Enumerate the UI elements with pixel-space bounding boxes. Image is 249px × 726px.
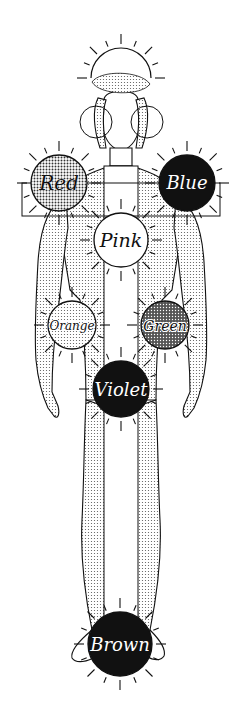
orange-circle: Orange (48, 301, 96, 349)
orange-label: Orange (49, 319, 94, 333)
red-circle: Red (31, 155, 87, 211)
blue-circle: Blue (159, 155, 215, 211)
violet-label: Violet (95, 379, 149, 400)
crown-circle (91, 48, 151, 93)
pink-label: Pink (99, 229, 143, 251)
head (103, 91, 139, 150)
red-label: Red (38, 171, 79, 195)
neck (110, 148, 132, 166)
blue-label: Blue (165, 172, 207, 193)
chakra-diagram: Red Blue Pink Orange Green Violet Brown (0, 0, 249, 726)
green-circle: Green (141, 301, 189, 349)
pink-circle: Pink (94, 213, 148, 267)
brown-label: Brown (89, 634, 150, 655)
violet-circle: Violet (93, 361, 149, 417)
brown-circle: Brown (88, 612, 152, 676)
green-label: Green (143, 318, 186, 334)
